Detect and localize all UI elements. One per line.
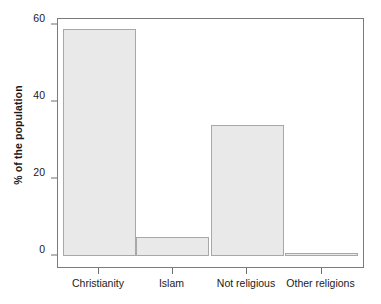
y-tick-label: 60	[33, 12, 45, 24]
x-tick-mark	[321, 268, 322, 274]
x-tick-label: Islam	[159, 277, 184, 289]
y-tick-label: 20	[33, 166, 45, 178]
x-tick-label: Other religions	[286, 277, 354, 289]
y-axis-ticks: 0204060	[0, 0, 57, 304]
bar	[136, 237, 209, 256]
x-tick-label: Not religious	[217, 277, 275, 289]
x-tick-label: Christianity	[72, 277, 124, 289]
x-tick-mark	[172, 268, 173, 274]
plot-area	[58, 19, 363, 267]
bar	[285, 253, 358, 256]
bar-chart-figure: % of the population 0204060 Christianity…	[0, 0, 381, 304]
bar	[211, 125, 284, 256]
y-tick-label: 0	[39, 243, 45, 255]
bar	[63, 29, 136, 256]
x-axis-ticks: ChristianityIslamNot religiousOther reli…	[0, 268, 381, 304]
x-tick-mark	[98, 268, 99, 274]
y-tick-label: 40	[33, 89, 45, 101]
x-tick-mark	[246, 268, 247, 274]
plot-frame	[57, 18, 364, 268]
